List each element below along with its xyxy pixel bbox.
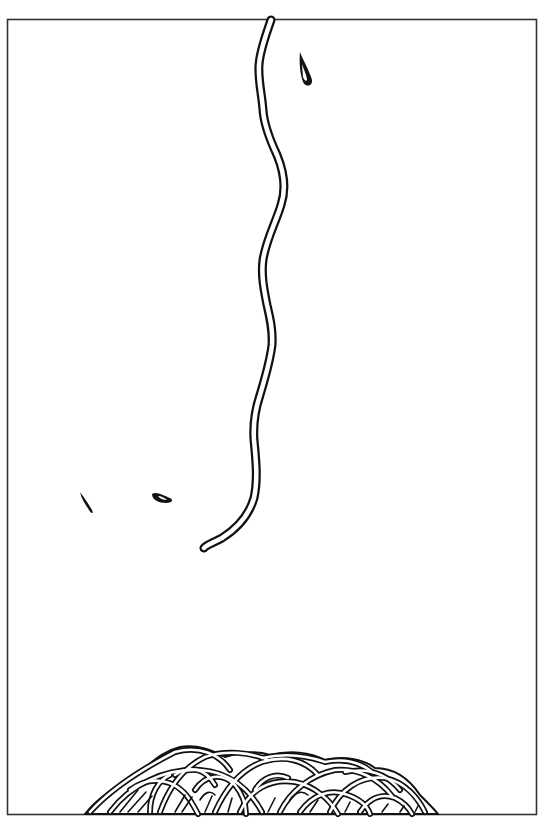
noodle-illustration [0, 0, 548, 819]
background [0, 0, 548, 819]
